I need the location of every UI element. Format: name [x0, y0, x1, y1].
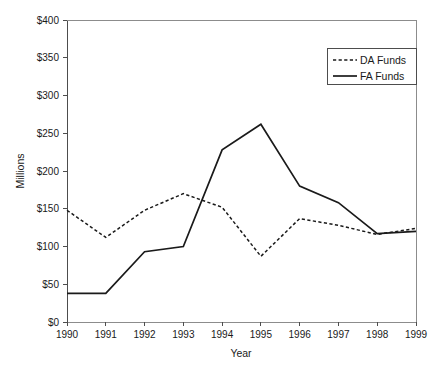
- y-tick-label: $250: [37, 128, 60, 139]
- x-tick-label: 1993: [172, 329, 195, 340]
- chart-legend: DA FundsFA Funds: [327, 48, 416, 84]
- y-axis-ticks: $0$50$100$150$200$250$300$350$400: [37, 15, 67, 328]
- x-tick-label: 1999: [405, 329, 428, 340]
- series-line-da-funds: [67, 194, 416, 257]
- y-tick-label: $50: [42, 279, 59, 290]
- y-tick-label: $0: [48, 317, 60, 328]
- series-line-fa-funds: [67, 124, 416, 293]
- y-axis-title: Millions: [14, 153, 26, 188]
- x-axis-ticks: 1990199119921993199419951996199719981999: [56, 322, 428, 340]
- y-tick-label: $100: [37, 241, 60, 252]
- y-tick-label: $400: [37, 15, 60, 26]
- x-tick-label: 1997: [327, 329, 350, 340]
- y-tick-label: $150: [37, 203, 60, 214]
- legend-label-da-funds: DA Funds: [360, 54, 406, 66]
- x-tick-label: 1995: [250, 329, 273, 340]
- data-series-group: [67, 124, 416, 293]
- x-tick-label: 1994: [211, 329, 234, 340]
- y-tick-label: $300: [37, 90, 60, 101]
- y-tick-label: $350: [37, 52, 60, 63]
- x-tick-label: 1990: [56, 329, 79, 340]
- line-chart: $0$50$100$150$200$250$300$350$400 199019…: [0, 0, 448, 373]
- chart-canvas: $0$50$100$150$200$250$300$350$400 199019…: [0, 0, 448, 373]
- x-tick-label: 1996: [289, 329, 312, 340]
- legend-label-fa-funds: FA Funds: [360, 70, 404, 82]
- y-tick-label: $200: [37, 166, 60, 177]
- x-tick-label: 1998: [366, 329, 389, 340]
- x-tick-label: 1991: [95, 329, 118, 340]
- x-axis-title: Year: [230, 347, 252, 359]
- x-tick-label: 1992: [133, 329, 156, 340]
